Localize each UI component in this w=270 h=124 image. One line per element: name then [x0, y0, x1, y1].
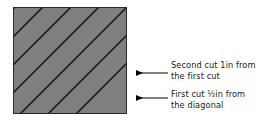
annotation-first-cut: First cut ½in from the diagonal — [171, 89, 245, 111]
annotation-first-cut-line1: First cut ½in from — [171, 89, 245, 100]
annotation-second-cut-line2: the first cut — [171, 71, 255, 82]
annotation-first-cut-line2: the diagonal — [171, 100, 245, 111]
annotation-second-cut-line1: Second cut 1in from — [171, 60, 255, 71]
cutting-diagram: Second cut 1in from the first cut First … — [0, 0, 270, 124]
leader-lines — [136, 73, 168, 98]
annotation-second-cut: Second cut 1in from the first cut — [171, 60, 255, 82]
